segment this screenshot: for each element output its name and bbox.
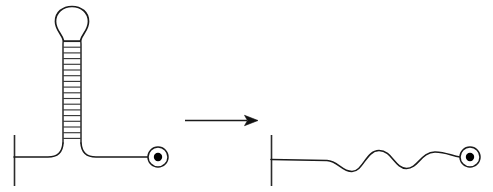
right-three-prime-dot-icon (466, 153, 474, 161)
left-three-prime-dot-icon (154, 153, 162, 161)
diagram-canvas (0, 0, 493, 192)
rna-unfolding-diagram (0, 0, 493, 192)
